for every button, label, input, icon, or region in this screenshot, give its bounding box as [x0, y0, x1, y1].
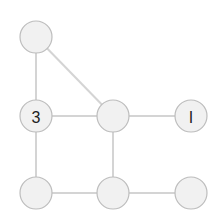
node-label: 3 [32, 109, 41, 126]
node-n4[interactable]: I [175, 100, 207, 132]
node-label: I [189, 109, 193, 126]
node-n5[interactable] [20, 177, 52, 209]
node-n1[interactable] [20, 21, 52, 53]
node-n3[interactable] [97, 100, 129, 132]
node-n2[interactable]: 3 [20, 100, 52, 132]
node-n6[interactable] [97, 177, 129, 209]
graph-diagram: 3 I [0, 0, 217, 222]
node-n7[interactable] [175, 177, 207, 209]
